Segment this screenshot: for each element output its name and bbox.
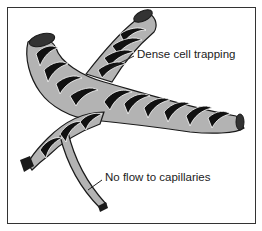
- vessel-opening-right: [236, 114, 244, 130]
- label-no-flow-to-capillaries: No flow to capillaries: [105, 171, 210, 183]
- label-dense-cell-trapping: Dense cell trapping: [137, 48, 235, 60]
- vessel-illustration: [0, 0, 262, 231]
- capillary-branch: [60, 132, 108, 212]
